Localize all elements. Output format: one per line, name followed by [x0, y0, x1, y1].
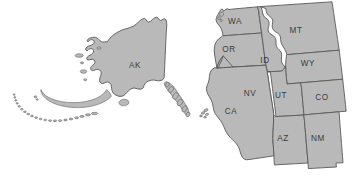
aleutian-island [14, 97, 16, 99]
puget-island [218, 17, 220, 20]
alexander-archipelago-group [164, 82, 190, 118]
aleutian-island [44, 119, 47, 121]
aleutian-island [27, 113, 30, 115]
aleutian-island [13, 94, 15, 96]
aleutian-island [59, 120, 62, 122]
nunivak-island [80, 70, 86, 74]
aleutian-island [15, 100, 17, 102]
st-lawrence-island [75, 54, 83, 58]
aleutian-islands-group [13, 94, 97, 122]
alaska-inset-group: AK [13, 17, 191, 122]
puget-island [219, 12, 223, 16]
small-island [80, 62, 83, 64]
state-shape-AK[interactable] [86, 17, 167, 96]
aleutian-island [69, 118, 73, 120]
alaska-peninsula-shape [41, 90, 111, 108]
state-shape-CO[interactable] [301, 79, 346, 115]
aleutian-island [18, 106, 20, 108]
aleutian-island [31, 115, 34, 117]
aleutian-island [21, 108, 24, 110]
kodiak-island-shape [119, 99, 129, 106]
channel-island [201, 111, 205, 114]
state-shape-CA[interactable] [206, 56, 274, 160]
aleutian-island [85, 114, 90, 116]
aleutian-island [35, 117, 38, 119]
aleutian-island [64, 119, 68, 121]
pribilof-islands-group [34, 96, 38, 100]
channel-island [200, 115, 203, 117]
channel-island [204, 108, 209, 112]
aleutian-island [75, 117, 79, 119]
puget-island [220, 19, 222, 21]
pribilof-island [36, 99, 38, 101]
state-shape-WA[interactable] [216, 7, 262, 36]
channel-island [205, 113, 209, 116]
contiguous-west-group: WA OR ID MT WY NV UT CO CA AZ NM [200, 2, 347, 169]
aleutian-island [53, 120, 56, 122]
aleutian-island [39, 118, 42, 120]
map-canvas: AK [0, 0, 352, 177]
state-shape-WY[interactable] [286, 50, 343, 84]
channel-island [204, 116, 207, 118]
us-west-alaska-map: AK [0, 0, 352, 177]
aleutian-island [49, 120, 52, 122]
state-shape-NM[interactable] [304, 112, 343, 169]
channel-islands-group [200, 108, 209, 118]
aleutian-island [23, 111, 26, 113]
state-shape-AZ[interactable] [273, 115, 308, 165]
aleutian-island [91, 112, 97, 114]
small-island [84, 79, 87, 81]
pribilof-island [34, 96, 37, 98]
aleutian-island [16, 103, 18, 105]
aleutian-island [80, 115, 84, 117]
small-island [97, 47, 101, 49]
